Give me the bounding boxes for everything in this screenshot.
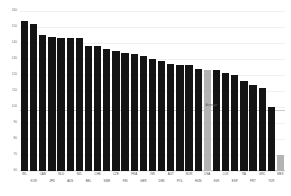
bar-series <box>20 11 285 171</box>
y-axis-tick-label: 100 <box>12 105 17 108</box>
bar-ita[interactable] <box>240 81 247 171</box>
y-axis-tick-label: 130 <box>12 57 17 60</box>
bar-svk[interactable] <box>213 70 220 171</box>
bar-can[interactable] <box>39 35 46 171</box>
y-axis-tick-label: 160 <box>12 9 17 12</box>
plot-area: Average <box>20 11 285 171</box>
x-axis-tick-label-jpn: JPN <box>49 180 55 183</box>
bar-irl[interactable] <box>21 21 28 171</box>
y-axis-tick-label: 70 <box>13 153 17 156</box>
x-axis-tick-label-svk: SVK <box>214 180 220 183</box>
x-axis-tick-label-dnk: DNK <box>159 180 165 183</box>
x-axis-tick-label-can: CAN <box>40 173 46 176</box>
bar-prt[interactable] <box>249 85 256 171</box>
x-axis-tick-label-ger: GER <box>140 180 146 183</box>
y-axis-tick-label: 80 <box>13 137 17 140</box>
y-axis-tick-label: 110 <box>12 89 17 92</box>
x-axis-tick-label-fra: FRA <box>131 173 137 176</box>
bar-tur[interactable] <box>268 107 275 171</box>
x-axis-tick-label-cze: CZE <box>113 173 119 176</box>
x-axis-tick-label-esp: ESP <box>232 180 238 183</box>
bar-jpn[interactable] <box>48 37 55 171</box>
bar-mex[interactable] <box>277 155 284 171</box>
bar-che[interactable] <box>94 46 101 171</box>
x-axis-tick-label-che: CHE <box>95 173 101 176</box>
bar-chart: 16015014013012011010090807060 Average IR… <box>0 0 291 196</box>
bar-swe[interactable] <box>103 49 110 171</box>
x-axis-tick-label-ita: ITA <box>242 173 246 176</box>
bar-bel[interactable] <box>85 46 92 171</box>
bar-fin[interactable] <box>121 53 128 171</box>
bar-aus[interactable] <box>67 38 74 171</box>
bar-grc[interactable] <box>259 88 266 171</box>
x-axis-tick-label-prt: PRT <box>250 180 256 183</box>
bar-nor[interactable] <box>185 65 192 171</box>
y-axis-tick-label: 120 <box>12 73 17 76</box>
x-axis-tick-label-bel: BEL <box>86 180 92 183</box>
bar-ger[interactable] <box>140 56 147 171</box>
bar-nzl[interactable] <box>76 38 83 171</box>
bar-aut[interactable] <box>167 64 174 171</box>
y-axis-tick-label: 90 <box>13 121 17 124</box>
x-axis-tick-label-aus: AUS <box>67 180 73 183</box>
bar-kor[interactable] <box>30 24 37 171</box>
x-axis-tick-label-kor: KOR <box>31 180 37 183</box>
bar-pol[interactable] <box>176 65 183 171</box>
x-axis-tick-label-isr: ISR <box>150 173 155 176</box>
bar-isr[interactable] <box>149 59 156 171</box>
x-axis-tick-label-usa: USA <box>204 173 210 176</box>
y-axis-tick-label: 60 <box>13 169 17 172</box>
x-axis-tick-label-hun: HUN <box>195 180 201 183</box>
y-axis-tick-label: 140 <box>12 41 17 44</box>
x-axis-tick-label-swe: SWE <box>103 180 110 183</box>
x-axis-tick-label-lux: LUX <box>223 173 229 176</box>
x-axis: IRLKORCANJPNNLDAUSNZLBELCHESWECZEFINFRAG… <box>20 172 285 196</box>
x-axis-tick-label-irl: IRL <box>22 173 27 176</box>
bar-fra[interactable] <box>131 54 138 171</box>
x-axis-tick-label-fin: FIN <box>123 180 128 183</box>
x-axis-tick-label-nzl: NZL <box>77 173 83 176</box>
bar-esp[interactable] <box>231 75 238 171</box>
bar-dnk[interactable] <box>158 61 165 171</box>
x-axis-tick-label-nld: NLD <box>58 173 64 176</box>
bar-nld[interactable] <box>57 38 64 171</box>
x-axis-tick-label-pol: POL <box>177 180 183 183</box>
y-axis: 16015014013012011010090807060 <box>0 0 20 196</box>
bar-cze[interactable] <box>112 51 119 171</box>
bar-lux[interactable] <box>222 73 229 171</box>
x-axis-tick-label-mex: MEX <box>277 173 283 176</box>
x-axis-tick-label-aut: AUT <box>168 173 174 176</box>
x-axis-tick-label-grc: GRC <box>259 173 265 176</box>
bar-usa[interactable] <box>204 70 211 171</box>
y-axis-tick-label: 150 <box>12 25 17 28</box>
x-axis-tick-label-tur: TUR <box>268 180 274 183</box>
x-axis-tick-label-nor: NOR <box>186 173 192 176</box>
average-line-label: Average <box>206 104 218 108</box>
bar-hun[interactable] <box>195 69 202 171</box>
